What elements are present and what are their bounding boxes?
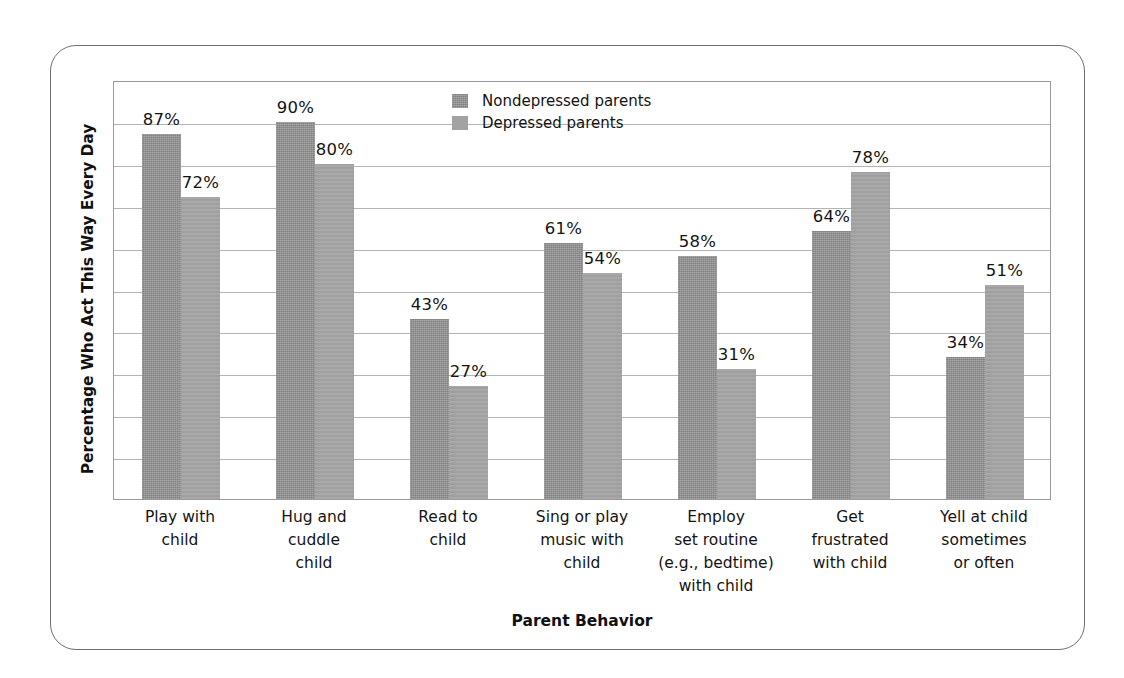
x-tick-label: Read tochild bbox=[381, 506, 515, 552]
bar-value-label: 43% bbox=[392, 295, 467, 314]
x-tick-label: Yell at childsometimesor often bbox=[917, 506, 1051, 575]
x-tick-label-line: Read to bbox=[381, 506, 515, 529]
bar bbox=[315, 164, 354, 499]
bar-value-label: 54% bbox=[565, 249, 640, 268]
plot-area: 87%72%90%80%43%27%61%54%58%31%64%78%34%5… bbox=[113, 81, 1051, 500]
legend-label: Depressed parents bbox=[482, 112, 624, 134]
x-tick-label-line: music with bbox=[515, 529, 649, 552]
legend-swatch-icon bbox=[452, 116, 468, 130]
x-tick-label: Getfrustratedwith child bbox=[783, 506, 917, 575]
bar bbox=[276, 122, 315, 499]
x-tick-label-line: Play with bbox=[113, 506, 247, 529]
x-tick-label-line: child bbox=[113, 529, 247, 552]
bar-value-label: 31% bbox=[699, 345, 774, 364]
bar-value-label: 27% bbox=[431, 362, 506, 381]
bar bbox=[812, 231, 851, 499]
x-tick-label-line: set routine bbox=[649, 529, 783, 552]
x-tick-label: Hug andcuddlechild bbox=[247, 506, 381, 575]
x-tick-label-line: child bbox=[381, 529, 515, 552]
bar-chart: Percentage Who Act This Way Every Day 87… bbox=[0, 0, 1124, 678]
bar bbox=[717, 369, 756, 499]
x-tick-label-line: Hug and bbox=[247, 506, 381, 529]
legend-label: Nondepressed parents bbox=[482, 90, 651, 112]
bar-value-label: 61% bbox=[526, 219, 601, 238]
x-tick-label-line: Get bbox=[783, 506, 917, 529]
x-tick-label-line: Employ bbox=[649, 506, 783, 529]
bar-value-label: 90% bbox=[258, 98, 333, 117]
bar-group: 64%78% bbox=[784, 82, 918, 499]
x-tick-label-line: child bbox=[247, 552, 381, 575]
x-tick-label: Play withchild bbox=[113, 506, 247, 552]
x-tick-label-line: or often bbox=[917, 552, 1051, 575]
x-tick-label-line: Sing or play bbox=[515, 506, 649, 529]
bars-layer: 87%72%90%80%43%27%61%54%58%31%64%78%34%5… bbox=[114, 82, 1050, 499]
x-axis-title: Parent Behavior bbox=[113, 612, 1051, 630]
x-tick-label-line: cuddle bbox=[247, 529, 381, 552]
bar-value-label: 78% bbox=[833, 148, 908, 167]
x-tick-label-line: Yell at child bbox=[917, 506, 1051, 529]
bar-group: 90%80% bbox=[248, 82, 382, 499]
x-tick-label-line: (e.g., bedtime) bbox=[649, 552, 783, 575]
bar bbox=[583, 273, 622, 499]
bar bbox=[851, 172, 890, 499]
legend-item[interactable]: Depressed parents bbox=[452, 112, 651, 134]
bar-value-label: 58% bbox=[660, 232, 735, 251]
bar-group: 34%51% bbox=[918, 82, 1052, 499]
x-tick-label: Employset routine(e.g., bedtime)with chi… bbox=[649, 506, 783, 598]
bar bbox=[410, 319, 449, 499]
legend-item[interactable]: Nondepressed parents bbox=[452, 90, 651, 112]
bar bbox=[544, 243, 583, 499]
bar bbox=[985, 285, 1024, 499]
bar-group: 43%27% bbox=[382, 82, 516, 499]
x-tick-label-line: with child bbox=[783, 552, 917, 575]
y-axis-title: Percentage Who Act This Way Every Day bbox=[79, 89, 97, 509]
bar-value-label: 51% bbox=[967, 261, 1042, 280]
x-tick-label-line: child bbox=[515, 552, 649, 575]
bar-group: 61%54% bbox=[516, 82, 650, 499]
x-tick-label-line: frustrated bbox=[783, 529, 917, 552]
bar bbox=[449, 386, 488, 499]
bar bbox=[946, 357, 985, 499]
bar bbox=[678, 256, 717, 499]
chart-legend: Nondepressed parentsDepressed parents bbox=[452, 90, 651, 134]
bar-value-label: 80% bbox=[297, 140, 372, 159]
bar bbox=[181, 197, 220, 499]
x-tick-label: Sing or playmusic withchild bbox=[515, 506, 649, 575]
bar-value-label: 87% bbox=[124, 110, 199, 129]
x-tick-label-line: with child bbox=[649, 575, 783, 598]
x-tick-label-line: sometimes bbox=[917, 529, 1051, 552]
x-axis-tick-labels: Play withchildHug andcuddlechildRead toc… bbox=[113, 506, 1051, 601]
gridline bbox=[114, 501, 1050, 502]
legend-swatch-icon bbox=[452, 94, 468, 108]
bar-group: 87%72% bbox=[114, 82, 248, 499]
bar-group: 58%31% bbox=[650, 82, 784, 499]
bar-value-label: 72% bbox=[163, 173, 238, 192]
